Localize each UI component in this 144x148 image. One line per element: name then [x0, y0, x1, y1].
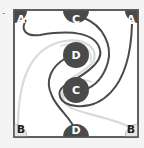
label-a-top-left: A — [17, 13, 26, 26]
label-b-bottom-left: B — [17, 123, 25, 136]
puzzle-diagram: A C A D C B D B — [0, 0, 144, 148]
label-b-bottom-right: B — [127, 123, 135, 136]
label-d-bottom: D — [71, 124, 80, 137]
label-c-top: C — [72, 13, 80, 26]
label-d-center: D — [71, 49, 80, 62]
puzzle-board — [14, 10, 138, 137]
label-a-top-right: A — [127, 13, 136, 26]
label-c-center: C — [72, 84, 80, 97]
